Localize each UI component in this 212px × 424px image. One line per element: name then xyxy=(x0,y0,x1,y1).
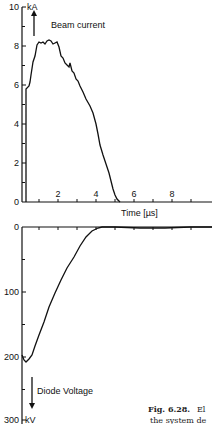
y-label-200: 200 xyxy=(4,352,19,362)
y-label-4: 4 xyxy=(14,119,19,129)
y-label-0: 0 xyxy=(14,197,19,207)
beam-current-chart: 0 2 4 6 8 10 kA 2 4 6 8 Time [µs] Beam c… xyxy=(9,2,212,218)
figure: 0 2 4 6 8 10 kA 2 4 6 8 Time [µs] Beam c… xyxy=(0,0,212,424)
diode-voltage-title: Diode Voltage xyxy=(37,386,93,396)
beam-current-title: Beam current xyxy=(51,20,106,30)
y-label-2: 2 xyxy=(14,158,19,168)
x-axis-title: Time [µs] xyxy=(121,208,158,218)
y-label-6: 6 xyxy=(14,80,19,90)
caption-text-line2: the system de xyxy=(150,416,207,424)
x-label-2: 2 xyxy=(55,189,60,199)
x-label-6: 6 xyxy=(131,189,136,199)
y-label-10: 10 xyxy=(9,2,19,12)
x-label-8: 8 xyxy=(169,189,174,199)
x-label-4: 4 xyxy=(93,189,98,199)
y-label-100: 100 xyxy=(4,287,19,297)
figure-caption: Fig. 6.28. El the system de xyxy=(148,404,207,424)
arrow-up-icon xyxy=(31,10,37,36)
y-label-8: 8 xyxy=(14,41,19,51)
y-unit-ka: kA xyxy=(27,2,38,12)
caption-text-line1: El xyxy=(197,405,206,414)
diode-voltage-curve xyxy=(22,227,212,362)
y-label-300: 300 xyxy=(4,415,19,424)
diode-voltage-chart: 0 100 200 300 kV Diode Voltage xyxy=(4,222,212,424)
caption-label: Fig. 6.28. xyxy=(148,404,190,414)
y-unit-kv: kV xyxy=(25,415,36,424)
beam-current-curve xyxy=(26,40,120,202)
arrow-down-icon xyxy=(29,377,35,409)
y-label-0: 0 xyxy=(14,222,19,232)
